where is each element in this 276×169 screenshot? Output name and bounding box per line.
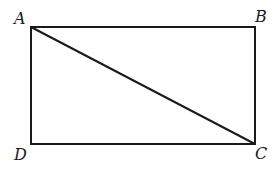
rectangle-diagram xyxy=(0,0,276,169)
vertex-label-c: C xyxy=(255,146,267,162)
diagonal-ac xyxy=(31,27,255,144)
vertex-label-a: A xyxy=(14,11,26,27)
vertex-label-d: D xyxy=(14,147,27,163)
vertex-label-b: B xyxy=(255,9,267,25)
